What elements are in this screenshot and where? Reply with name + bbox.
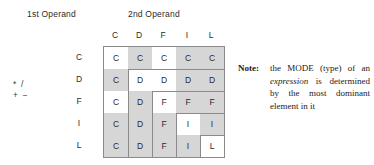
mode-promotion-figure: 1st Operand 2nd Operand * / + − CDFIL CD…: [0, 0, 374, 165]
column-header-c: C: [103, 30, 127, 42]
column-header-d: D: [127, 30, 151, 42]
cell-d-f: D: [152, 69, 176, 91]
cell-f-f: F: [152, 91, 176, 113]
cell-c-d: C: [128, 47, 152, 69]
operator-line-multiply-divide: * /: [13, 79, 29, 90]
cell-c-l: C: [200, 47, 224, 69]
column-header-l: L: [199, 30, 223, 42]
cell-i-d: D: [128, 113, 152, 135]
cell-d-l: D: [200, 69, 224, 91]
note-block: Note: the MODE (type) of an expression i…: [238, 62, 370, 112]
cell-f-c: C: [104, 91, 128, 113]
row-header-c: C: [66, 46, 92, 68]
table-row: CDFFF: [104, 91, 224, 113]
cell-f-l: F: [200, 91, 224, 113]
note-emphasis-expression: expression: [270, 76, 308, 86]
second-operand-caption: 2nd Operand: [128, 9, 180, 19]
cell-f-d: D: [128, 91, 152, 113]
promotion-matrix: CCCCCCDDDDCDFFFCDFIICDFIL: [103, 46, 225, 158]
row-header-column: CDFIL: [66, 46, 92, 156]
row-header-f: F: [66, 90, 92, 112]
row-header-l: L: [66, 134, 92, 156]
note-label: Note:: [238, 63, 259, 73]
table-row: CCCCC: [104, 47, 224, 69]
cell-c-f: C: [152, 47, 176, 69]
cell-i-c: C: [104, 113, 128, 135]
cell-i-i: I: [176, 113, 200, 135]
cell-l-f: F: [152, 135, 176, 157]
cell-d-i: D: [176, 69, 200, 91]
table-row: CDDDD: [104, 69, 224, 91]
cell-i-l: I: [200, 113, 224, 135]
cell-l-l: L: [200, 135, 224, 157]
table-row: CDFII: [104, 113, 224, 135]
cell-c-i: C: [176, 47, 200, 69]
row-header-d: D: [66, 68, 92, 90]
cell-f-i: F: [176, 91, 200, 113]
note-body: the MODE (type) of an expression is dete…: [270, 62, 370, 112]
cell-l-d: D: [128, 135, 152, 157]
cell-c-c: C: [104, 47, 128, 69]
note-text-before: the MODE (type) of an: [270, 63, 370, 73]
table-row: CDFIL: [104, 135, 224, 157]
cell-i-f: F: [152, 113, 176, 135]
column-header-f: F: [151, 30, 175, 42]
operator-labels: * / + −: [13, 79, 29, 101]
operator-line-plus-minus: + −: [13, 90, 29, 101]
column-header-i: I: [175, 30, 199, 42]
column-header-row: CDFIL: [103, 30, 223, 42]
cell-l-i: I: [176, 135, 200, 157]
row-header-i: I: [66, 112, 92, 134]
cell-l-c: C: [104, 135, 128, 157]
cell-d-d: D: [128, 69, 152, 91]
first-operand-caption: 1st Operand: [27, 9, 76, 19]
cell-d-c: C: [104, 69, 128, 91]
